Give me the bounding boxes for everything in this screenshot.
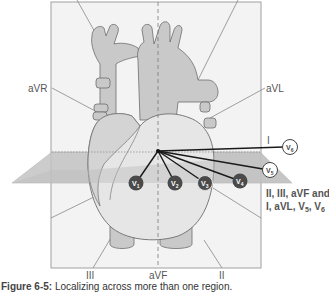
lead-label-avr: aVR bbox=[28, 83, 47, 94]
figure-caption-text: Localizing across more than one region. bbox=[52, 281, 232, 292]
ecg-lead-diagram: V1 V2 V3 V4 V5 V6 aVR aVL I III aVF II I… bbox=[0, 0, 329, 297]
lead-label-ii: II bbox=[219, 270, 225, 281]
lead-label-avl: aVL bbox=[266, 83, 284, 94]
lead-hub bbox=[156, 149, 160, 153]
lead-label-avf: aVF bbox=[149, 270, 167, 281]
lead-label-iii: III bbox=[86, 270, 94, 281]
lead-label-i: I bbox=[267, 135, 270, 146]
figure-caption: Figure 6-5: Localizing across more than … bbox=[1, 281, 232, 292]
figure-caption-label: Figure 6-5: bbox=[1, 281, 52, 292]
annotation-line-2: I, aVL, V5, V6 bbox=[266, 201, 325, 213]
annotation-line-1: II, III, aVF and bbox=[266, 188, 329, 199]
